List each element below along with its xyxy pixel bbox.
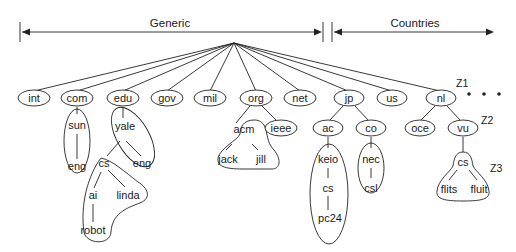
zone-label-z3: Z3 (490, 162, 502, 174)
node-ieee: ieee (265, 120, 297, 136)
svg-text:jp: jp (344, 92, 354, 104)
countries-span-arrow: Countries (332, 17, 494, 42)
svg-text:us: us (386, 92, 398, 104)
node-yale-cs: cs (99, 157, 111, 169)
root-edges (34, 43, 440, 91)
svg-text:mil: mil (203, 92, 217, 104)
node-jill: jill (255, 153, 266, 165)
svg-text:nl: nl (437, 92, 446, 104)
node-com: com (61, 90, 93, 106)
svg-text:com: com (67, 92, 88, 104)
node-int: int (18, 90, 50, 106)
node-keio-cs: cs (323, 182, 335, 194)
node-oce: oce (405, 120, 435, 136)
generic-label: Generic (150, 17, 191, 29)
svg-text:oce: oce (411, 122, 429, 134)
node-gov: gov (151, 90, 183, 106)
node-acm: acm (234, 123, 255, 135)
node-org: org (240, 90, 272, 106)
svg-text:ieee: ieee (271, 122, 292, 134)
subtree-nodes: sun eng yale eng cs ai linda robot acm i… (68, 119, 488, 236)
svg-text:ac: ac (322, 122, 334, 134)
node-linda: linda (116, 189, 140, 201)
node-jp: jp (334, 90, 364, 106)
node-yale: yale (115, 120, 135, 132)
node-net: net (284, 90, 316, 106)
zone-label-z2: Z2 (481, 114, 493, 126)
svg-text:net: net (292, 92, 307, 104)
node-fluit: fluit (470, 183, 487, 195)
svg-text:co: co (365, 122, 377, 134)
node-ai: ai (89, 189, 98, 201)
node-ac: ac (313, 120, 343, 136)
tld-nodes: int com edu gov mil org net jp us nl (18, 90, 456, 106)
svg-text:org: org (248, 92, 264, 104)
node-pc24: pc24 (318, 212, 342, 224)
node-robot: robot (80, 224, 105, 236)
node-nl: nl (426, 90, 456, 106)
zone-label-z1: Z1 (456, 77, 468, 89)
node-nec: nec (362, 153, 380, 165)
node-edu: edu (107, 90, 139, 106)
node-sun: sun (68, 119, 86, 131)
node-sun-eng: eng (68, 160, 86, 172)
node-co: co (356, 120, 386, 136)
node-yale-eng: eng (133, 157, 151, 169)
node-mil: mil (194, 90, 226, 106)
svg-text:edu: edu (114, 92, 132, 104)
node-flits: flits (441, 183, 458, 195)
svg-text:vu: vu (457, 122, 469, 134)
node-vu: vu (448, 120, 478, 136)
node-keio: keio (318, 153, 338, 165)
node-csl: csl (364, 182, 377, 194)
node-jack: jack (217, 153, 238, 165)
countries-label: Countries (390, 17, 439, 29)
node-us: us (377, 90, 407, 106)
generic-span-arrow: Generic (20, 17, 323, 42)
svg-text:int: int (28, 92, 40, 104)
svg-text:gov: gov (158, 92, 176, 104)
dns-zone-diagram: Generic Countries (0, 0, 516, 252)
ellipsis-more-icon (467, 92, 501, 96)
node-vu-cs: cs (458, 156, 470, 168)
